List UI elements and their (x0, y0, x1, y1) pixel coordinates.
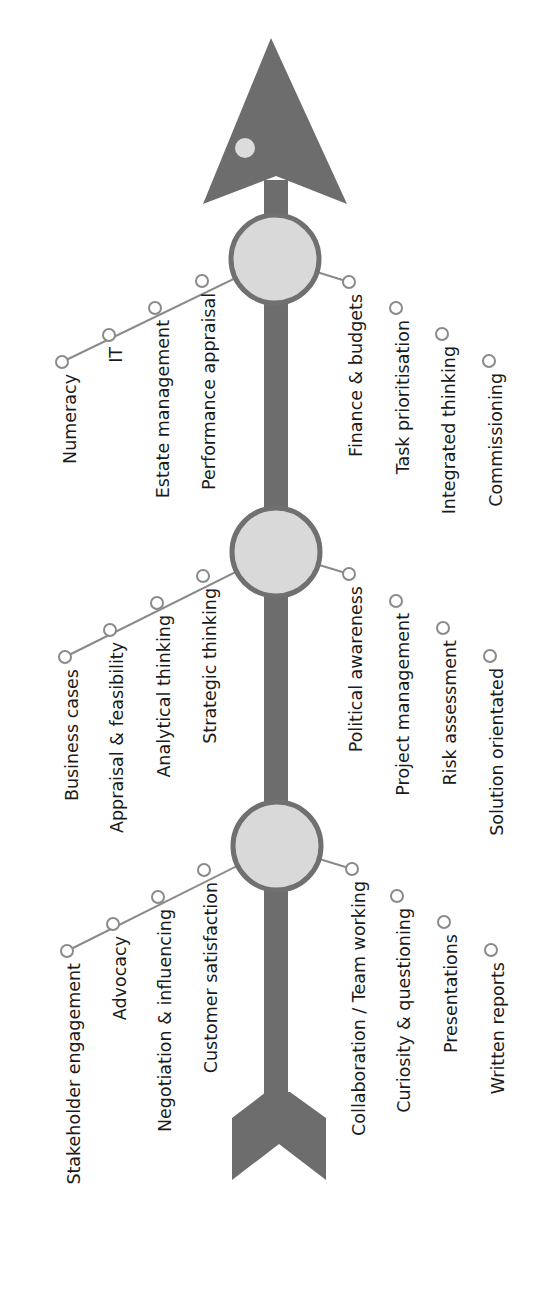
skill-label: Advocacy (110, 936, 130, 1020)
node-circle-icon (61, 945, 73, 957)
node-circle-icon (346, 863, 358, 875)
skill-label: Customer satisfaction (201, 882, 221, 1073)
node-circle-icon (107, 918, 119, 930)
skill-label: Project management (393, 613, 413, 796)
node-circle-icon (436, 328, 448, 340)
skill-label: Business cases (62, 669, 82, 801)
node-circle-icon (483, 355, 495, 367)
skill-label: Finance & budgets (346, 294, 366, 457)
node-circle-icon (343, 276, 355, 288)
skill-label: Commissioning (486, 373, 506, 507)
arrow-head (203, 38, 347, 204)
arrow-fletching (232, 1092, 326, 1180)
arrow-head-dot-icon (235, 138, 255, 158)
node-circle-icon (197, 570, 209, 582)
node-circle-icon (196, 275, 208, 287)
node-circle-icon (103, 329, 115, 341)
node-circle-icon (390, 302, 402, 314)
node-circle-icon (149, 302, 161, 314)
skill-label: Stakeholder engagement (64, 963, 84, 1185)
skill-label: Analytical thinking (154, 615, 174, 778)
node-circle-icon (152, 891, 164, 903)
node-circle-icon (104, 624, 116, 636)
node-circle-icon (56, 356, 68, 368)
node-circle-icon (391, 890, 403, 902)
node-circle-icon (484, 650, 496, 662)
skill-label: Task prioritisation (393, 320, 413, 475)
skill-label: Numeracy (60, 374, 80, 464)
skill-label: Written reports (488, 962, 508, 1094)
node-circle-icon (390, 595, 402, 607)
skills-arrow-diagram: Numeracy IT Estate management Performanc… (0, 0, 535, 1296)
node-circle-icon (438, 916, 450, 928)
skill-label: Negotiation & influencing (155, 909, 175, 1132)
node-circle-icon (198, 864, 210, 876)
hub-top (231, 215, 319, 303)
node-circle-icon (151, 597, 163, 609)
skill-label: Strategic thinking (200, 588, 220, 744)
hub-bottom (233, 802, 321, 890)
skill-label: Presentations (441, 934, 461, 1053)
node-circle-icon (437, 622, 449, 634)
hub-middle (232, 508, 320, 596)
skill-label: Estate management (153, 320, 173, 498)
skill-label: Appraisal & feasibility (107, 642, 127, 833)
arrow-shaft (264, 180, 288, 1095)
skill-label: Collaboration / Team working (349, 881, 369, 1136)
skill-label: Curiosity & questioning (394, 908, 414, 1113)
skill-label: Solution orientated (487, 668, 507, 836)
skill-label: IT (106, 347, 126, 363)
node-circle-icon (485, 944, 497, 956)
skill-label: Performance appraisal (199, 293, 219, 490)
node-circle-icon (59, 651, 71, 663)
skill-label: Risk assessment (440, 640, 460, 786)
skill-label: Political awareness (346, 586, 366, 752)
node-circle-icon (343, 568, 355, 580)
skill-label: Integrated thinking (439, 346, 459, 514)
